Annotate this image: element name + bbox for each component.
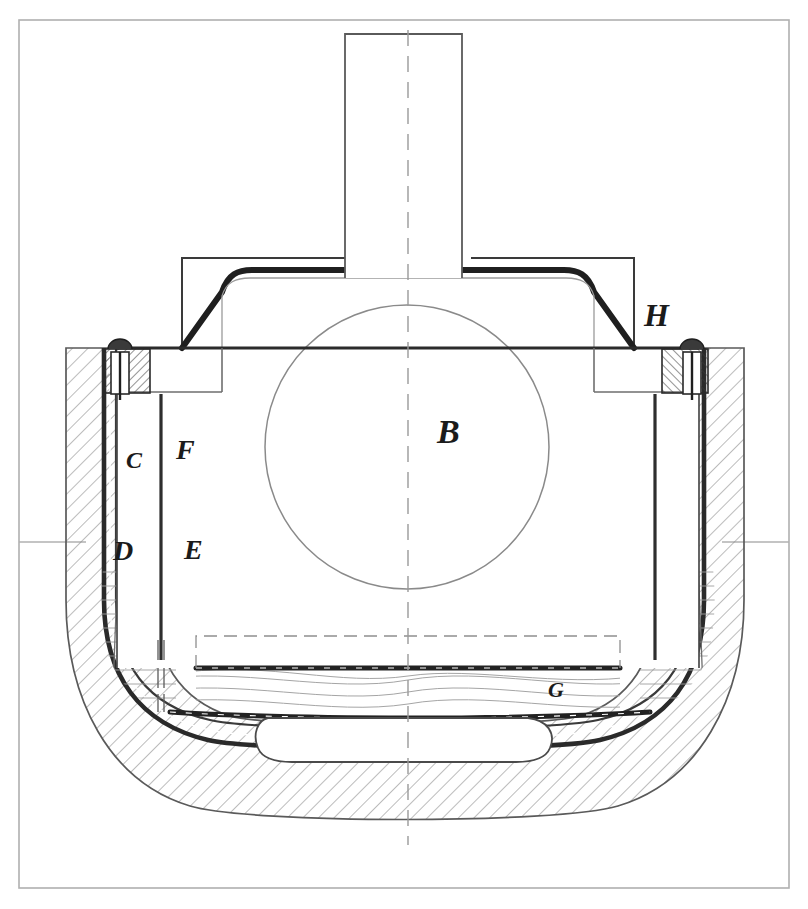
- callout-f-plate: F: [175, 434, 195, 465]
- bottom-recess-cavity: [256, 718, 552, 762]
- callout-g-floor: G: [548, 677, 564, 702]
- callout-d-wall: D: [112, 535, 133, 566]
- callout-c-lining: C: [126, 447, 143, 473]
- callout-e-chamber: E: [183, 534, 203, 565]
- callout-b-body: B: [436, 413, 460, 450]
- callout-h-flange: H: [643, 297, 670, 333]
- upper-shaft: [345, 34, 462, 278]
- technical-drawing-page: B C F D E G H: [0, 0, 808, 909]
- sectional-drawing-canvas: B C F D E G H: [0, 0, 808, 909]
